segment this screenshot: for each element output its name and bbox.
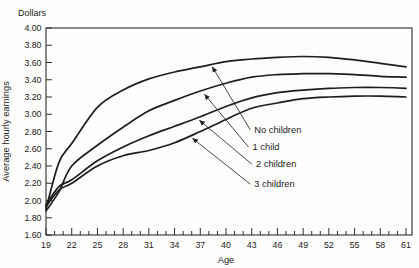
x-tick-label: 43: [247, 240, 257, 250]
annotation-label-1-child: 1 child: [253, 142, 280, 152]
x-tick-label: 61: [401, 240, 411, 250]
y-tick-label: 1.60: [24, 230, 41, 240]
plot-border: [46, 28, 412, 235]
x-tick-label: 37: [195, 240, 205, 250]
annotation-arrow-3-children: [193, 138, 251, 184]
annotation-label-2-children: 2 children: [256, 159, 296, 169]
x-tick-label: 28: [118, 240, 128, 250]
series-line-3-children: [46, 96, 406, 206]
x-tick-label: 19: [41, 240, 51, 250]
y-unit-label: Dollars: [18, 8, 47, 18]
y-tick-label: 3.40: [24, 75, 41, 85]
x-tick-label: 52: [324, 240, 334, 250]
x-tick-label: 25: [93, 240, 103, 250]
annotation-label-3-children: 3 children: [254, 179, 294, 189]
series-line-no-children: [46, 57, 406, 210]
x-tick-label: 49: [298, 240, 308, 250]
x-tick-label: 58: [375, 240, 385, 250]
series-lines: [46, 57, 406, 211]
x-tick-label: 31: [144, 240, 154, 250]
y-tick-label: 3.00: [24, 109, 41, 119]
y-tick-label: 3.60: [24, 58, 41, 68]
x-tick-label: 40: [221, 240, 231, 250]
earnings-by-age-figure: 4.003.803.603.403.203.002.802.602.402.20…: [0, 0, 419, 268]
x-tick-label: 46: [273, 240, 283, 250]
x-tick-label: 55: [350, 240, 360, 250]
chart-canvas: 4.003.803.603.403.203.002.802.602.402.20…: [0, 0, 419, 268]
annotation-arrow-1-child: [205, 94, 249, 147]
y-axis-label: Average hourly earnings: [1, 81, 11, 182]
y-tick-label: 1.80: [24, 213, 41, 223]
y-tick-label: 3.80: [24, 40, 41, 50]
y-tick-label: 2.60: [24, 144, 41, 154]
y-tick-label: 3.20: [24, 92, 41, 102]
annotation-label-no-children: No children: [254, 125, 301, 135]
y-tick-label: 2.00: [24, 196, 41, 206]
x-tick-label: 34: [170, 240, 180, 250]
axes: 4.003.803.603.403.203.002.802.602.402.20…: [24, 23, 411, 250]
y-tick-label: 2.40: [24, 161, 41, 171]
y-tick-label: 2.80: [24, 127, 41, 137]
x-axis-label: Age: [218, 255, 235, 265]
x-tick-label: 22: [67, 240, 77, 250]
annotation-arrow-no-children: [212, 67, 250, 130]
y-tick-label: 4.00: [24, 23, 41, 33]
y-tick-label: 2.20: [24, 178, 41, 188]
